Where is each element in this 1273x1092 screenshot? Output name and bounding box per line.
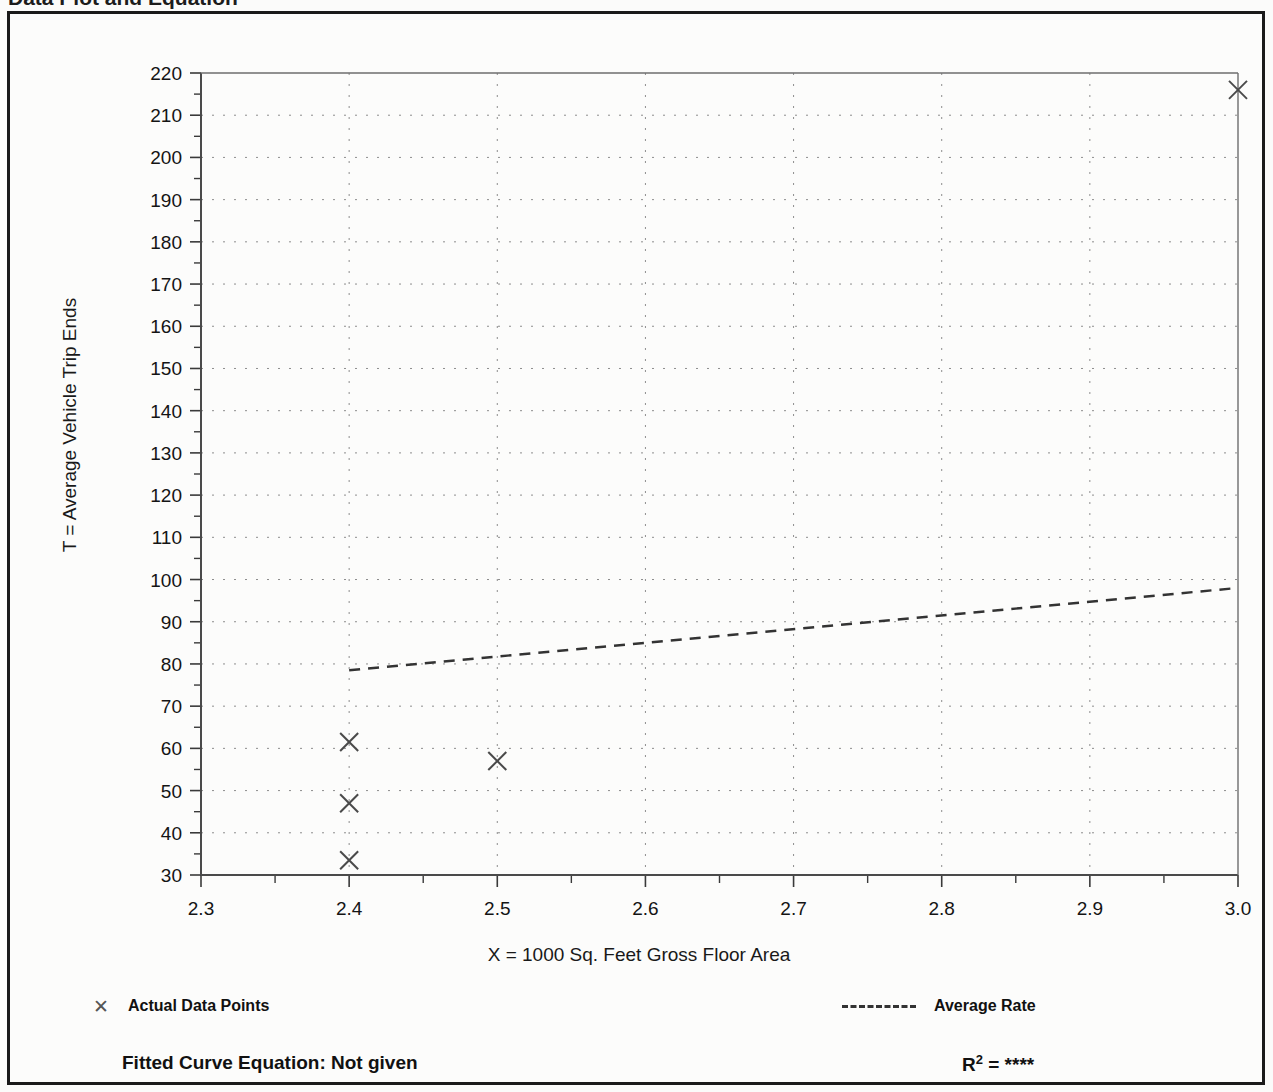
svg-text:200: 200 xyxy=(150,147,182,168)
r-squared-exponent: 2 xyxy=(976,1052,983,1067)
x-marker-icon: ✕ xyxy=(88,997,114,1016)
svg-text:2.4: 2.4 xyxy=(336,898,363,919)
svg-text:100: 100 xyxy=(150,570,182,591)
r-squared-prefix: R xyxy=(962,1054,976,1075)
svg-text:140: 140 xyxy=(150,401,182,422)
svg-text:180: 180 xyxy=(150,232,182,253)
data-point-x-icon xyxy=(340,794,358,812)
svg-text:50: 50 xyxy=(161,781,182,802)
svg-text:30: 30 xyxy=(161,865,182,886)
axis-lines xyxy=(201,73,1238,875)
x-axis-title: X = 1000 Sq. Feet Gross Floor Area xyxy=(10,944,1268,966)
legend-label-average-rate: Average Rate xyxy=(934,997,1036,1015)
gridlines xyxy=(201,73,1238,875)
axis-tick-labels: 3040506070809010011012013014015016017018… xyxy=(150,63,1251,919)
figure-frame: 3040506070809010011012013014015016017018… xyxy=(7,11,1265,1085)
svg-text:190: 190 xyxy=(150,190,182,211)
svg-text:130: 130 xyxy=(150,443,182,464)
svg-text:70: 70 xyxy=(161,696,182,717)
fitted-curve-equation: Fitted Curve Equation: Not given xyxy=(122,1052,418,1074)
svg-text:2.3: 2.3 xyxy=(188,898,214,919)
page-header-title: Data Plot and Equation xyxy=(8,0,238,10)
svg-text:80: 80 xyxy=(161,654,182,675)
svg-text:220: 220 xyxy=(150,63,182,84)
svg-text:160: 160 xyxy=(150,316,182,337)
r-squared-number: = **** xyxy=(988,1054,1034,1075)
plot-area: 3040506070809010011012013014015016017018… xyxy=(10,14,1268,1088)
svg-text:110: 110 xyxy=(152,527,182,548)
svg-text:2.9: 2.9 xyxy=(1077,898,1103,919)
legend-item-average-rate: Average Rate xyxy=(842,992,1036,1020)
svg-text:210: 210 xyxy=(150,105,182,126)
dashed-line-icon xyxy=(842,1005,916,1008)
scatter-plot-svg: 3040506070809010011012013014015016017018… xyxy=(10,14,1268,1088)
r-squared-value: R2 = **** xyxy=(962,1052,1034,1076)
svg-text:170: 170 xyxy=(150,274,182,295)
axis-ticks xyxy=(190,73,1238,887)
svg-text:150: 150 xyxy=(150,358,182,379)
svg-text:120: 120 xyxy=(150,485,182,506)
legend-item-actual-data-points: ✕ Actual Data Points xyxy=(88,992,269,1020)
svg-text:2.5: 2.5 xyxy=(484,898,510,919)
legend-label-actual-data-points: Actual Data Points xyxy=(128,997,269,1015)
svg-text:2.8: 2.8 xyxy=(929,898,955,919)
svg-text:2.7: 2.7 xyxy=(780,898,806,919)
data-point-x-icon xyxy=(340,733,358,751)
svg-text:2.6: 2.6 xyxy=(632,898,658,919)
y-axis-title: T = Average Vehicle Trip Ends xyxy=(59,225,81,625)
svg-text:60: 60 xyxy=(161,738,182,759)
svg-text:3.0: 3.0 xyxy=(1225,898,1251,919)
equation-row: Fitted Curve Equation: Not given R2 = **… xyxy=(10,1050,1268,1086)
svg-text:40: 40 xyxy=(161,823,182,844)
svg-text:90: 90 xyxy=(161,612,182,633)
chart-legend: ✕ Actual Data Points Average Rate xyxy=(10,992,1268,1026)
